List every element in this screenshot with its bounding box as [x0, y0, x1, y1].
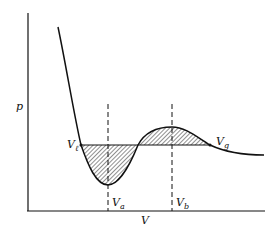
upper-shaded-area: [138, 127, 210, 145]
va-label: Va: [112, 197, 125, 211]
vl-label: Vℓ: [67, 139, 78, 153]
y-axis-label: p: [16, 101, 23, 112]
vl-point: [80, 144, 83, 147]
vg-point: [209, 144, 212, 147]
pv-diagram: p V Vℓ Vg Va Vb: [0, 0, 276, 237]
vg-label: Vg: [216, 136, 229, 150]
x-axis-label: V: [141, 215, 149, 226]
vb-label: Vb: [176, 197, 189, 211]
diagram-canvas: [0, 0, 276, 237]
